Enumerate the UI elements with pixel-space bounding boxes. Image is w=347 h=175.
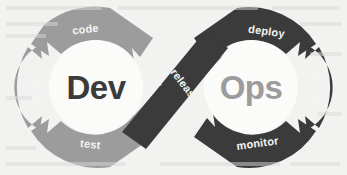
segment-label-build: build xyxy=(28,74,40,101)
core-label-ops: Ops xyxy=(220,69,283,106)
core-label-dev: Dev xyxy=(66,69,126,106)
devops-loop-svg: code build test deploy operate monitor p… xyxy=(0,0,347,175)
segment-label-test: test xyxy=(80,137,102,151)
segment-label-operate: operate xyxy=(309,67,321,108)
devops-infinity-diagram: code build test deploy operate monitor p… xyxy=(0,0,347,175)
